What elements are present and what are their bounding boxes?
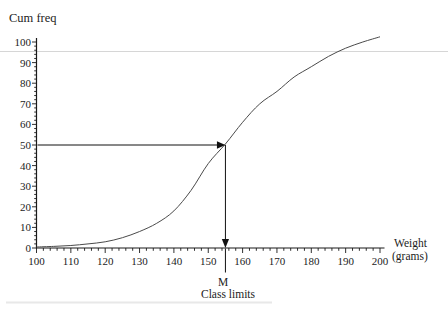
x-tick-label: 200 (372, 255, 389, 267)
y-tick-label: 50 (20, 139, 32, 151)
x-tick-label: 140 (166, 255, 183, 267)
x-tick-label: 130 (131, 255, 148, 267)
y-tick-label: 70 (20, 98, 32, 110)
y-tick-label: 90 (20, 57, 32, 69)
ogive-chart: 1001101201301401501601701801902000102030… (0, 0, 448, 309)
ogive-curve-path (37, 37, 381, 247)
arrowhead-right-icon (217, 141, 226, 148)
y-tick-label: 30 (20, 180, 32, 192)
median-annotation (38, 141, 230, 272)
y-tick-label: 10 (20, 221, 32, 233)
x-axis-caption: Class limits (201, 288, 256, 300)
x-tick-label: 150 (200, 255, 217, 267)
x-tick-label: 100 (28, 255, 45, 267)
axes (37, 38, 385, 248)
y-axis-title: Cum freq (9, 11, 57, 25)
median-label: M (218, 276, 228, 288)
y-tick-label: 60 (20, 118, 32, 130)
y-tick-label: 40 (20, 160, 32, 172)
x-tick-label: 180 (303, 255, 320, 267)
arrowhead-down-icon (222, 239, 229, 248)
x-tick-label: 170 (269, 255, 286, 267)
y-tick-label: 20 (20, 201, 32, 213)
cumulative-frequency-curve (37, 37, 381, 247)
y-tick-label: 0 (26, 242, 32, 254)
x-axis-title-line1: Weight (394, 237, 428, 250)
x-tick-label: 190 (337, 255, 354, 267)
x-tick-label: 160 (234, 255, 251, 267)
x-tick-label: 120 (97, 255, 114, 267)
axis-tick-labels: 1001101201301401501601701801902000102030… (15, 36, 389, 267)
x-tick-label: 110 (63, 255, 80, 267)
y-tick-label: 100 (15, 36, 32, 48)
y-tick-label: 80 (20, 77, 32, 89)
axis-ticks (32, 42, 380, 253)
chart-page: 1001101201301401501601701801902000102030… (0, 0, 448, 309)
x-axis-title-line2: (grams) (392, 250, 428, 263)
axis-lines (37, 38, 385, 248)
